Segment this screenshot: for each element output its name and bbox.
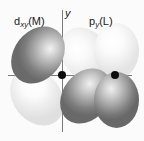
d-orbital-label-subscript: xy: [20, 20, 28, 29]
d-orbital-label-tail: (M): [28, 15, 45, 27]
d-orbital-label: dxy(M): [14, 16, 45, 29]
ligand-center-dot: [111, 71, 119, 79]
metal-center-dot: [58, 71, 66, 79]
y-axis-label: y: [65, 8, 71, 19]
p-orbital-lobe-lower: [94, 72, 139, 128]
p-orbital-label: py(L): [89, 16, 113, 29]
orbital-overlap-diagram: y x dxy(M) py(L): [0, 0, 144, 141]
p-orbital-label-tail: (L): [99, 15, 112, 27]
